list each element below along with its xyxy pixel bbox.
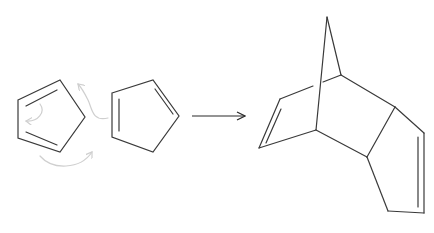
reaction-svg (0, 0, 434, 233)
curly-arrow-icon (40, 152, 92, 166)
dienophile-molecule (112, 80, 179, 152)
single-bond (395, 107, 424, 133)
single-bond (327, 17, 341, 75)
double-bond (26, 132, 57, 145)
double-bond (26, 90, 57, 106)
single-bond (316, 17, 327, 130)
ring-bonds (18, 80, 85, 152)
single-bond (341, 75, 395, 107)
single-bond (316, 130, 367, 157)
single-bond (323, 75, 341, 82)
reaction-diagram: cyclopentadiene (diene) cyclopentadiene … (0, 0, 434, 233)
double-bond (155, 89, 173, 114)
single-bond (280, 86, 313, 99)
product-molecule (259, 17, 424, 213)
curly-arrow-icon (26, 104, 42, 121)
curly-arrows (26, 84, 108, 166)
single-bond (259, 99, 280, 148)
diene-molecule (18, 80, 85, 152)
single-bond (367, 107, 395, 157)
single-bond (388, 211, 424, 213)
ring-bonds (112, 80, 179, 152)
single-bond (367, 157, 388, 211)
